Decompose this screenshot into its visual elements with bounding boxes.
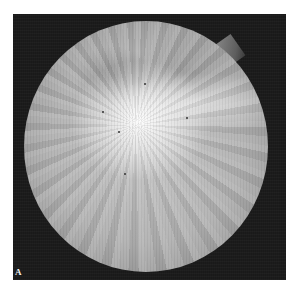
fundus-image bbox=[24, 21, 268, 272]
speck bbox=[186, 117, 188, 119]
speck bbox=[102, 111, 104, 113]
speck bbox=[118, 131, 120, 133]
speck bbox=[124, 173, 126, 175]
panel-label: A bbox=[15, 268, 22, 277]
scan-texture bbox=[24, 21, 268, 272]
speck bbox=[144, 83, 146, 85]
